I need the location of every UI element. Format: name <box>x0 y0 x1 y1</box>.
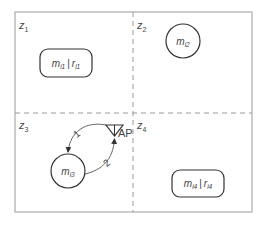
node-circle-i2: mi2 <box>166 24 200 58</box>
edge-2-arrow <box>85 139 115 174</box>
edge-2-label: 2 <box>101 156 113 168</box>
diagram-canvas: z1 z2 z3 z4 mi1|ri1 mi2 mi3 AP 1 2 mi4 <box>0 0 265 225</box>
zone-label-z2: z2 <box>136 19 147 33</box>
zone-label-z4: z4 <box>136 119 147 133</box>
access-point-label: AP <box>118 127 133 139</box>
node-circle-i3: mi3 <box>51 154 85 188</box>
node-box-i1: mi1|ri1 <box>40 49 92 77</box>
zone-label-z3: z3 <box>18 119 29 133</box>
node-box-i4: mi4|ri4 <box>172 170 224 197</box>
zone-label-z1: z1 <box>18 19 29 33</box>
